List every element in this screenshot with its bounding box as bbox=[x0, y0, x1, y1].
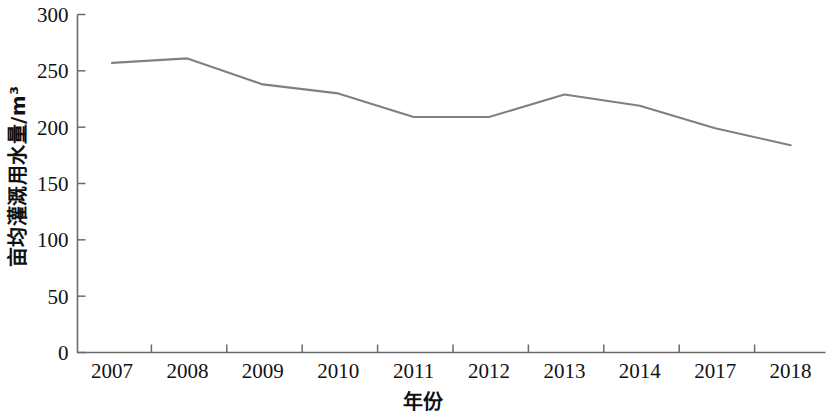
x-tick-label: 2010 bbox=[317, 359, 359, 383]
x-axis-title: 年份 bbox=[0, 386, 828, 415]
x-tick-label: 2017 bbox=[694, 359, 736, 383]
x-tick-label: 2007 bbox=[91, 359, 133, 383]
line-chart-plot: 050100150200250300 200720082009201020112… bbox=[0, 0, 828, 419]
x-tick-label: 2011 bbox=[393, 359, 434, 383]
y-tick-label: 150 bbox=[37, 172, 69, 196]
y-tick-label: 0 bbox=[58, 341, 69, 365]
axis-frame bbox=[78, 15, 826, 353]
x-tick-label: 2009 bbox=[242, 359, 284, 383]
x-tick-label: 2018 bbox=[770, 359, 812, 383]
x-tick-label: 2012 bbox=[468, 359, 510, 383]
y-tick-label: 250 bbox=[37, 59, 69, 83]
y-tick-label: 200 bbox=[37, 116, 69, 140]
y-tick-label-group: 050100150200250300 bbox=[37, 3, 69, 365]
y-tick-label: 50 bbox=[48, 285, 69, 309]
tick-mark-group bbox=[78, 15, 755, 353]
chart-figure: 亩均灌溉用水量/m³ 050100150200250300 2007200820… bbox=[0, 0, 828, 419]
x-tick-label: 2014 bbox=[619, 359, 662, 383]
x-tick-label-group: 2007200820092010201120122013201420172018 bbox=[91, 359, 812, 383]
x-tick-label: 2013 bbox=[543, 359, 585, 383]
y-tick-label: 300 bbox=[37, 3, 69, 27]
data-series-line bbox=[112, 58, 791, 145]
y-tick-label: 100 bbox=[37, 228, 69, 252]
x-tick-label: 2008 bbox=[166, 359, 208, 383]
x-axis-title-label: 年份 bbox=[403, 386, 443, 415]
